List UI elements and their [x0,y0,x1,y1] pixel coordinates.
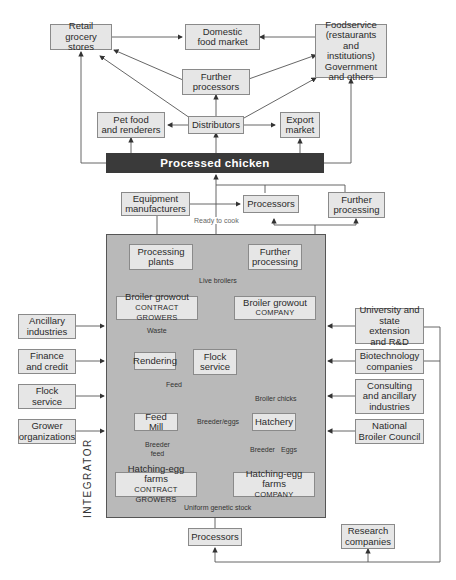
node-label: Ancillary [29,316,65,327]
input-finance-credit: Finance and credit [18,349,76,374]
node-label: processors [193,82,239,93]
label-uniform-genetic-stock: Uniform genetic stock [183,504,252,511]
node-label: Hatching-egg farms [118,464,194,485]
node-label: Broiler growout [243,298,307,309]
node-label: and others [329,72,374,83]
node-label: plants [148,257,173,268]
input-national-broiler-council: National Broiler Council [355,419,424,444]
node-hatching-egg-farms-contract: Hatching-egg farms CONTRACT GROWERS [115,472,197,497]
processed-chicken-banner: Processed chicken [106,153,324,173]
input-biotechnology-companies: Biotechnology companies [355,349,424,374]
node-retail-grocery-stores: Retail grocery stores [50,24,112,50]
node-label: Finance [30,351,64,362]
node-sublabel: CONTRACT GROWERS [118,485,194,506]
node-label: processing [334,205,380,216]
node-label: industries [27,327,68,338]
node-pet-food-renderers: Pet food and renderers [97,112,165,138]
label-breeder: Breeder [249,446,276,453]
node-label: Rendering [133,356,177,367]
node-label: Flock [36,386,59,397]
label-ready-to-cook: Ready to cook [193,217,240,224]
integrator-label: INTEGRATOR [82,438,93,518]
label-feed: Feed [165,381,183,388]
input-university-extension: University and state extension and R&D [355,308,424,344]
input-consulting-ancillary: Consulting and ancillary industries [355,379,424,414]
input-ancillary-industries: Ancillary industries [18,314,76,339]
node-label: service [200,362,230,373]
node-equipment-manufacturers: Equipment manufacturers [121,192,190,216]
node-label: Distributors [192,120,240,131]
input-grower-organizations: Grower organizations [18,419,76,444]
node-label: National [372,421,407,432]
node-label: industries [369,402,410,413]
node-label: companies [367,362,413,373]
node-label: University and [359,305,419,316]
label-waste: Waste [146,327,168,334]
node-further-processing-external: Further processing [328,192,385,218]
node-foodservice: Foodservice (restaurants and institution… [315,24,387,78]
node-sublabel: CONTRACT GROWERS [119,303,195,324]
node-sublabel: COMPANY [255,490,294,501]
node-further-processors: Further processors [182,69,250,95]
node-label: (restaurants [326,30,377,41]
label-eggs: Eggs [280,446,298,453]
node-label: and R&D [370,337,409,348]
node-distributors: Distributors [188,116,244,134]
node-rendering: Rendering [134,352,176,370]
node-label: Processors [247,199,295,210]
node-label: grocery stores [53,32,109,53]
node-label: Broiler growout [125,292,189,303]
node-label: organizations [19,432,76,443]
node-label: Biotechnology [360,351,420,362]
node-label: manufacturers [125,204,186,215]
node-label: Feed Mill [137,412,175,433]
node-label: Research [348,526,389,537]
node-label: and credit [26,362,68,373]
node-hatching-egg-farms-company: Hatching-egg farms COMPANY [233,472,315,497]
node-flock-service-internal: Flock service [193,349,237,375]
label-breeder-eggs: Breeder/eggs [196,418,240,425]
node-label: and renderers [101,125,160,136]
node-further-processing-internal: Further processing [248,244,302,270]
node-sublabel: COMPANY [256,308,295,319]
node-label: and institutions) [318,41,384,62]
node-broiler-growout-company: Broiler growout COMPANY [234,296,316,320]
node-processors: Processors [243,195,299,213]
node-label: Grower [31,421,62,432]
node-label: state extension [358,316,421,337]
node-hatchery: Hatchery [252,413,296,431]
node-label: market [285,125,314,136]
node-feed-mill: Feed Mill [134,413,178,431]
node-label: Processors [191,532,239,543]
input-flock-service: Flock service [18,384,76,409]
node-label: food market [197,37,247,48]
node-domestic-food-market: Domestic food market [185,24,260,50]
label-breeder-feed-l1: Breeder [145,441,170,448]
node-label: Hatching-egg farms [236,469,312,490]
node-label: companies [345,537,391,548]
label-breeder-feed: Breeder feed [144,440,171,458]
label-breeder-feed-l2: feed [151,450,165,457]
node-label: Hatchery [255,417,293,428]
node-label: Broiler Council [359,432,421,443]
label-broiler-chicks: Broiler chicks [254,395,298,402]
node-research-companies: Research companies [341,524,395,549]
node-processors-bottom: Processors [188,528,242,546]
node-export-market: Export market [280,112,320,138]
node-processing-plants: Processing plants [129,244,193,270]
node-broiler-growout-contract: Broiler growout CONTRACT GROWERS [116,296,198,320]
node-label: service [32,397,62,408]
label-live-broilers: Live broilers [198,277,238,284]
node-label: processing [252,257,298,268]
